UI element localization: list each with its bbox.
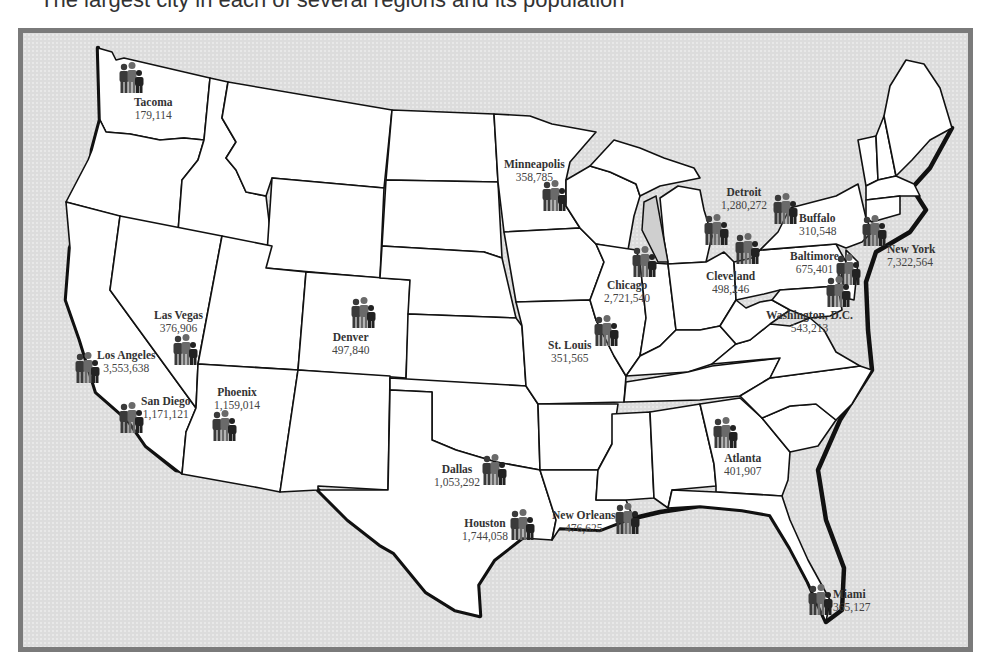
state-wyoming [266, 178, 384, 278]
city-label-tacoma[interactable]: Tacoma179,114 [134, 96, 173, 122]
city-population: 376,906 [154, 322, 203, 335]
people-group-icon [860, 215, 888, 247]
city-label-miami[interactable]: Miami365,127 [833, 588, 870, 614]
city-name: Chicago [604, 279, 650, 292]
state-maine [884, 60, 952, 176]
state-north-dakota [386, 110, 498, 182]
city-population: 1,053,292 [434, 476, 480, 489]
people-group-icon [592, 315, 620, 347]
people-group-icon [171, 334, 199, 366]
state-montana [222, 82, 392, 196]
city-population: 365,127 [833, 601, 870, 614]
people-group-icon [711, 417, 739, 449]
people-group-icon [210, 410, 238, 442]
city-label-houston[interactable]: Houston1,744,058 [462, 517, 508, 543]
city-population: 675,401 [790, 263, 839, 276]
city-name: Minneapolis [504, 158, 565, 171]
people-group-icon [630, 246, 658, 278]
state-iowa [504, 228, 604, 302]
people-group-icon [824, 276, 852, 308]
city-population: 1,744,058 [462, 530, 508, 543]
city-name: Washington, D.C. [766, 309, 853, 322]
city-name: Phoenix [214, 386, 260, 399]
people-group-icon [349, 297, 377, 329]
city-population: 1,159,014 [214, 399, 260, 412]
people-group-icon [508, 509, 536, 541]
city-label-buffalo[interactable]: Buffalo310,548 [799, 212, 836, 238]
city-label-phoenix[interactable]: Phoenix1,159,014 [214, 386, 260, 412]
city-name: Buffalo [799, 212, 836, 225]
city-population: 401,907 [724, 465, 761, 478]
city-name: Los Angeles [97, 349, 155, 362]
city-label-dallas[interactable]: Dallas1,053,292 [434, 463, 480, 489]
city-population: 498,246 [706, 283, 755, 296]
city-label-san-diego[interactable]: San Diego1,171,121 [141, 395, 191, 421]
city-population: 179,114 [134, 109, 173, 122]
city-population: 3,553,638 [97, 362, 155, 375]
city-name: Atlanta [724, 452, 761, 465]
city-label-atlanta[interactable]: Atlanta401,907 [724, 452, 761, 478]
city-label-washington-dc[interactable]: Washington, D.C.543,213 [766, 309, 853, 335]
city-label-minneapolis[interactable]: Minneapolis358,785 [504, 158, 565, 184]
city-name: Denver [332, 331, 369, 344]
city-label-los-angeles[interactable]: Los Angeles3,553,638 [97, 349, 155, 375]
city-name: Las Vegas [154, 309, 203, 322]
city-population: 543,213 [766, 322, 853, 335]
city-population: 351,565 [548, 352, 591, 365]
city-name: New Orleans [552, 509, 616, 522]
city-name: Detroit [721, 186, 767, 199]
city-name: Miami [833, 588, 870, 601]
city-label-chicago[interactable]: Chicago2,721,540 [604, 279, 650, 305]
city-label-las-vegas[interactable]: Las Vegas376,906 [154, 309, 203, 335]
city-population: 358,785 [504, 171, 565, 184]
city-name: Houston [462, 517, 508, 530]
state-kansas [406, 314, 526, 386]
city-label-denver[interactable]: Denver497,840 [332, 331, 369, 357]
people-group-icon [613, 503, 641, 535]
people-group-icon [806, 584, 834, 616]
city-population: 497,840 [332, 344, 369, 357]
city-name: San Diego [141, 395, 191, 408]
state-vermont [858, 136, 878, 186]
city-label-cleveland[interactable]: Cleveland498,246 [706, 270, 755, 296]
people-group-icon [117, 62, 145, 94]
city-population: 1,171,121 [141, 408, 191, 421]
city-population: 1,280,272 [721, 199, 767, 212]
people-group-icon [480, 454, 508, 486]
city-name: Dallas [434, 463, 480, 476]
state-washington [98, 48, 210, 140]
city-name: Baltimore [790, 250, 839, 263]
city-name: Tacoma [134, 96, 173, 109]
people-group-icon [540, 180, 568, 212]
city-population: 310,548 [799, 225, 836, 238]
city-name: Cleveland [706, 270, 755, 283]
city-label-detroit[interactable]: Detroit1,280,272 [721, 186, 767, 212]
city-name: New York [887, 243, 935, 256]
city-name: St. Louis [548, 339, 591, 352]
people-group-icon [733, 233, 761, 265]
city-population: 7,322,564 [887, 256, 935, 269]
city-population: 2,721,540 [604, 292, 650, 305]
city-label-st-louis[interactable]: St. Louis351,565 [548, 339, 591, 365]
city-label-new-orleans[interactable]: New Orleans476,625 [552, 509, 616, 535]
people-group-icon [771, 193, 799, 225]
city-label-baltimore[interactable]: Baltimore675,401 [790, 250, 839, 276]
people-group-icon [702, 214, 730, 246]
state-arizona [182, 364, 298, 492]
state-new-mexico [280, 370, 390, 492]
city-population: 476,625 [552, 522, 616, 535]
city-label-new-york[interactable]: New York7,322,564 [887, 243, 935, 269]
